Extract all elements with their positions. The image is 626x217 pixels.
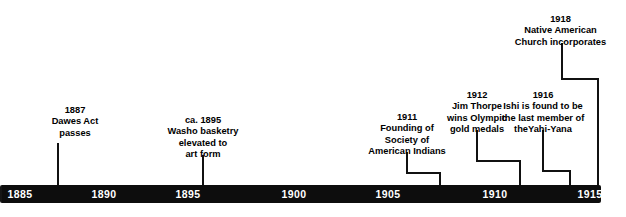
event-text-1887-line2: passes xyxy=(20,128,130,139)
leader-line-1912-elbow xyxy=(476,160,521,162)
axis-tick-1890: 1890 xyxy=(92,188,117,200)
event-text-1895-line1: Washo basketry xyxy=(141,126,265,137)
event-label-1918: 1918 Native American Church incorporates xyxy=(498,14,623,48)
timeline-figure: 1887 Dawes Act passes ca. 1895 Washo bas… xyxy=(0,0,626,217)
event-text-1916-line1: Ishi is found to be xyxy=(484,101,602,112)
leader-line-1918-stem xyxy=(561,43,563,79)
axis-tick-1910: 1910 xyxy=(483,188,508,200)
axis-tick-1905: 1905 xyxy=(376,188,401,200)
event-year-1918: 1918 xyxy=(498,14,623,25)
event-text-1895-line3: art form xyxy=(141,149,265,160)
leader-line-1918-elbow xyxy=(561,78,599,80)
leader-line-1916-elbow xyxy=(542,170,571,172)
leader-line-1887 xyxy=(57,143,59,187)
axis-tick-1885: 1885 xyxy=(8,188,33,200)
axis-tick-1900: 1900 xyxy=(282,188,307,200)
event-year-1916: 1916 xyxy=(484,90,602,101)
event-label-1916: 1916 Ishi is found to be the last member… xyxy=(484,90,602,136)
leader-line-1916-stem xyxy=(542,130,544,171)
event-text-1916-line2: the last member of xyxy=(484,113,602,124)
event-text-1916-line3: theYahi-Yana xyxy=(484,124,602,135)
event-year-1887: 1887 xyxy=(20,105,130,116)
event-text-1895-line2: elevated to xyxy=(141,138,265,149)
event-text-1918-line2: Church incorporates xyxy=(498,37,623,48)
axis-tick-1915: 1915 xyxy=(578,188,603,200)
event-year-1895: ca. 1895 xyxy=(141,115,265,126)
event-label-1895: ca. 1895 Washo basketry elevated to art … xyxy=(141,115,265,161)
event-text-1918-line1: Native American xyxy=(498,25,623,36)
event-text-1911-line3: American Indians xyxy=(352,146,462,157)
axis-tick-1895: 1895 xyxy=(176,188,201,200)
event-label-1887: 1887 Dawes Act passes xyxy=(20,105,130,139)
event-text-1887-line1: Dawes Act xyxy=(20,116,130,127)
event-text-1911-line2: Society of xyxy=(352,135,462,146)
leader-line-1911-elbow xyxy=(406,172,441,174)
leader-line-1912-drop xyxy=(519,160,521,187)
